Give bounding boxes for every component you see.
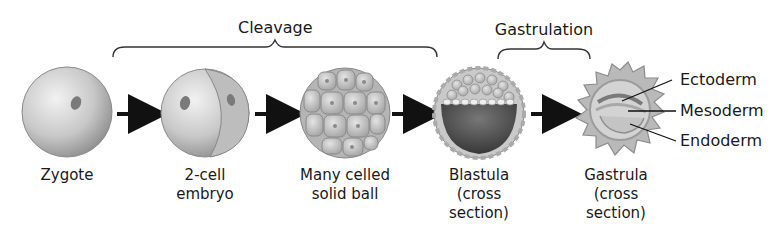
embryonic-development-diagram: Cleavage Gastrulation Ectoderm Mesoderm …	[0, 0, 783, 240]
cleavage-brace	[113, 40, 437, 57]
morula-illustration	[300, 68, 390, 158]
germ-layer-endoderm: Endoderm	[680, 131, 762, 150]
phase-label-cleavage: Cleavage	[238, 18, 312, 37]
blastula-illustration	[434, 68, 524, 158]
stage-label-zygote: Zygote	[27, 166, 107, 185]
gastrula-illustration	[576, 62, 676, 155]
zygote-illustration	[22, 67, 112, 157]
germ-layer-ectoderm: Ectoderm	[680, 70, 757, 89]
stage-label-blastula: Blastula (cross section)	[439, 166, 519, 223]
gastrulation-brace	[498, 42, 590, 59]
two-cell-illustration	[161, 69, 249, 157]
stage-label-2-cell: 2-cell embryo	[165, 166, 245, 204]
germ-layer-mesoderm: Mesoderm	[680, 101, 764, 120]
diagram-graphics	[0, 0, 783, 240]
phase-label-gastrulation: Gastrulation	[493, 20, 595, 39]
stage-label-gastrula: Gastrula (cross section)	[576, 166, 656, 223]
stage-label-many-celled: Many celled solid ball	[290, 166, 400, 204]
